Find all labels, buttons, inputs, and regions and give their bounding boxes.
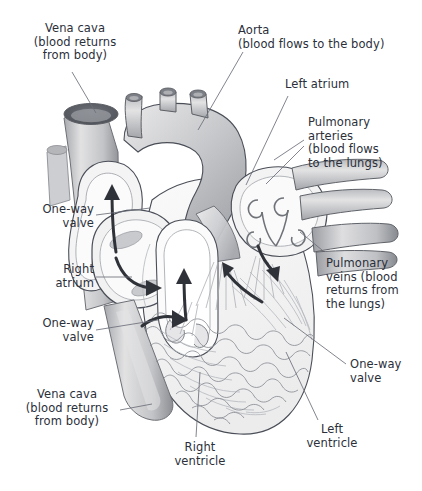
label-left-atrium: Left atrium xyxy=(285,78,405,92)
label-one-way-valve-tricuspid: One-way valve xyxy=(8,317,94,344)
label-vena-cava-inferior: Vena cava (blood returns from body) xyxy=(2,388,132,429)
label-pulmonary-arteries: Pulmonary arteries (blood flows to the l… xyxy=(308,116,422,170)
label-vena-cava-superior: Vena cava (blood returns from body) xyxy=(10,22,140,63)
label-pulmonary-veins: Pulmonary veins (blood returns from the … xyxy=(326,257,422,311)
label-right-atrium: Right atrium xyxy=(8,263,94,290)
label-right-ventricle: Right ventricle xyxy=(160,441,240,468)
right-ventricle-chamber xyxy=(156,220,218,357)
label-aorta: Aorta (blood flows to the body) xyxy=(238,24,422,51)
label-left-ventricle: Left ventricle xyxy=(292,423,372,450)
label-one-way-valve-pulmonary: One-way valve xyxy=(8,203,94,230)
label-one-way-valve-aortic: One-way valve xyxy=(350,358,422,385)
